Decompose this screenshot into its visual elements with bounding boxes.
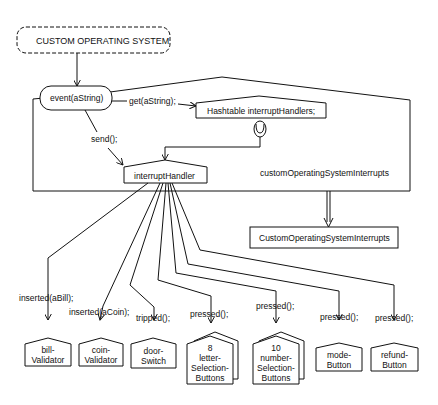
label-line: Switch <box>131 356 176 366</box>
pressed-letter-message: pressed(); <box>190 309 228 319</box>
count-line: 10 <box>253 343 299 353</box>
tripped-message: tripped(); <box>136 313 170 323</box>
label-line: Button <box>371 360 418 370</box>
label-line: bill- <box>25 345 71 355</box>
label-line: Buttons <box>253 373 299 383</box>
pressed-refund-message: pressed(); <box>375 313 413 323</box>
label-line: letter- <box>187 353 233 363</box>
send-message-label: send(); <box>91 134 117 144</box>
count-line: 8 <box>187 343 233 353</box>
pressed-number-message: pressed(); <box>256 301 294 311</box>
container-label: customOperatingSystemInterrupts <box>260 168 389 178</box>
event-label[interactable]: event(aString) <box>50 93 103 103</box>
hashtable-label[interactable]: Hashtable interruptHandlers; <box>207 106 315 116</box>
label-line: Selection- <box>187 363 233 373</box>
label-line: Button <box>316 360 362 370</box>
label-line: Validator <box>79 355 123 365</box>
system-label: CUSTOM OPERATING SYSTEM <box>36 36 169 46</box>
letter-selection-buttons-label[interactable]: 8 letter- Selection- Buttons <box>187 343 233 383</box>
inserted-coin-message: inserted(aCoin); <box>69 307 129 317</box>
door-switch-label[interactable]: door- Switch <box>131 346 176 366</box>
label-line: number- <box>253 353 299 363</box>
class-label[interactable]: CustomOperatingSystemInterrupts <box>259 233 390 243</box>
coin-validator-label[interactable]: coin- Validator <box>79 345 123 365</box>
label-line: Validator <box>25 355 71 365</box>
label-line: Buttons <box>187 373 233 383</box>
pressed-mode-message: pressed(); <box>320 312 358 322</box>
get-message-label: get(aString); <box>129 96 176 106</box>
number-selection-buttons-label[interactable]: 10 number- Selection- Buttons <box>253 343 299 383</box>
mode-button-label[interactable]: mode- Button <box>316 350 362 370</box>
label-line: door- <box>131 346 176 356</box>
u-connector-icon <box>254 121 266 137</box>
label-line: Selection- <box>253 363 299 373</box>
inserted-bill-message: inserted(aBill); <box>19 293 73 303</box>
bill-validator-label[interactable]: bill- Validator <box>25 345 71 365</box>
label-line: coin- <box>79 345 123 355</box>
label-line: mode- <box>316 350 362 360</box>
label-line: refund- <box>371 350 418 360</box>
interrupt-handler-label[interactable]: interruptHandler <box>134 171 195 181</box>
refund-button-label[interactable]: refund- Button <box>371 350 418 370</box>
